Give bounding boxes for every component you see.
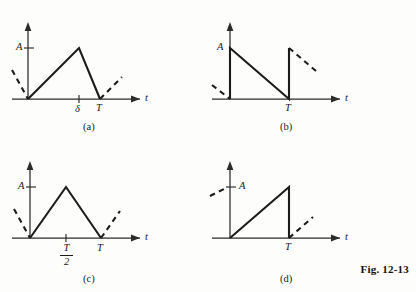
y-axis-arrowhead (27, 161, 34, 170)
x-axis-label-c: t (145, 232, 148, 243)
x-tick-label-T-d: T (285, 242, 291, 253)
waveform-panel-c: A T 2 T t (c) (0, 146, 208, 292)
y-axis-arrowhead (227, 161, 234, 170)
dashed-continuation-left-c (14, 209, 30, 238)
dashed-continuation-right-c (101, 211, 120, 238)
panel-caption-b: (b) (280, 122, 292, 133)
panel-c-plot (0, 146, 208, 292)
x-axis-arrowhead (331, 96, 340, 103)
amplitude-label-b: A (217, 42, 223, 53)
dashed-continuation-left-d (210, 187, 228, 196)
dashed-continuation-left-b (212, 85, 230, 99)
figure-container: A δ T t (a) A T t (b) (0, 0, 416, 292)
waveform-trace-d (230, 187, 289, 238)
dashed-continuation-right-a (100, 77, 122, 99)
waveform-trace-a (28, 48, 100, 99)
amplitude-label-c: A (18, 181, 24, 192)
panel-caption-a: (a) (83, 122, 95, 133)
amplitude-label-a: A (16, 42, 22, 53)
figure-caption: Fig. 12-13 (361, 263, 409, 275)
amplitude-label-d: A (239, 181, 245, 192)
x-tick-label-half-period: T 2 (60, 243, 73, 267)
x-axis-arrowhead (131, 96, 140, 103)
waveform-panel-a: A δ T t (a) (0, 0, 208, 146)
y-axis-arrowhead (25, 22, 32, 31)
x-axis-label-d: t (345, 232, 348, 243)
waveform-trace-c (30, 187, 101, 238)
x-tick-label-delta: δ (75, 104, 80, 115)
waveform-trace-b (230, 48, 289, 99)
waveform-panel-b: A T t (b) (208, 0, 416, 146)
x-tick-label-T-b: T (285, 103, 291, 114)
fraction-denominator: 2 (60, 256, 73, 267)
x-axis-label-a: t (145, 93, 148, 104)
x-axis-arrowhead (131, 235, 140, 242)
x-axis-arrowhead (331, 235, 340, 242)
x-axis-label-b: t (345, 93, 348, 104)
dashed-continuation-right-d (289, 217, 313, 238)
panel-caption-d: (d) (280, 274, 292, 285)
x-tick-label-T-c: T (97, 243, 103, 254)
dashed-continuation-right-b (289, 48, 316, 71)
panel-caption-c: (c) (83, 274, 95, 285)
panel-b-plot (208, 0, 416, 146)
y-axis-arrowhead (227, 22, 234, 31)
x-tick-label-T-a: T (96, 103, 102, 114)
dashed-continuation-left-a (12, 70, 28, 99)
panel-a-plot (0, 0, 208, 146)
fraction-numerator: T (60, 243, 73, 254)
